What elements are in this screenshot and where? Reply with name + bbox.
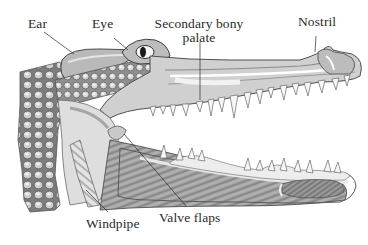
lower-jaw-bone-front	[282, 180, 344, 199]
leader-ear	[44, 32, 74, 54]
label-windpipe: Windpipe	[86, 217, 140, 231]
label-secondary-bony-palate-line1: Secondary bony	[152, 17, 246, 31]
nasal-passage	[175, 80, 240, 83]
crocodile-anatomy-diagram: Ear Eye Secondary bony palate Nostril Wi…	[0, 0, 368, 245]
label-eye: Eye	[92, 17, 113, 31]
label-ear: Ear	[28, 17, 47, 31]
label-secondary-bony-palate: Secondary bony palate	[152, 17, 246, 45]
label-nostril: Nostril	[298, 15, 336, 29]
label-valve-flaps: Valve flaps	[159, 211, 220, 225]
leader-nostril	[315, 36, 316, 52]
leader-eye	[114, 38, 128, 50]
label-secondary-bony-palate-line2: palate	[152, 31, 246, 45]
